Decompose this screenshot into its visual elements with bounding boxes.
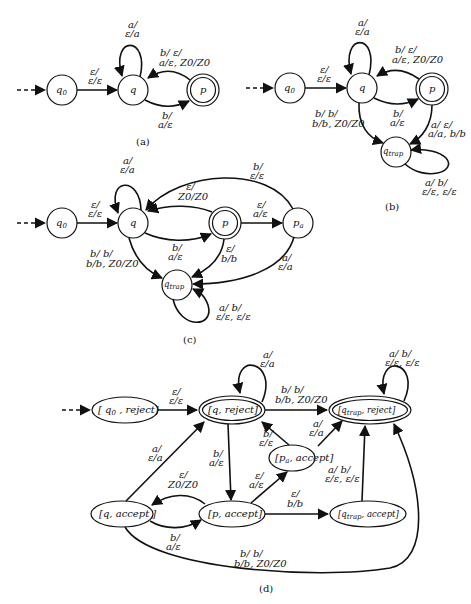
edge-q-p xyxy=(145,100,189,106)
edge-label: b/b, Z0/Z0 xyxy=(275,394,328,405)
edge-label: a/ε xyxy=(158,119,173,130)
edge-p-q xyxy=(377,70,419,79)
edge-label: ε/a xyxy=(309,427,324,438)
svg-text:p: p xyxy=(222,217,229,228)
edge-label: b/b xyxy=(287,498,303,509)
svg-text:p: p xyxy=(429,83,436,94)
edge-q-p xyxy=(145,233,211,240)
state-p-accept: [p, accept] xyxy=(199,501,265,527)
svg-text:p: p xyxy=(200,84,207,95)
edge-label: b/b, Z0/Z0 xyxy=(86,258,139,269)
panel-a: q0 ε/ ε/ε q a/ ε/a p b/ ε/ a/ε, Z0/Z0 b/… xyxy=(17,19,219,147)
svg-text:q: q xyxy=(130,84,136,95)
panel-b: q0 ε/ ε/ε q a/ ε/a p b/ ε/ a/ε, Z0/Z0 b/… xyxy=(246,17,466,212)
edge-label: ε/ε xyxy=(169,395,183,406)
edge-q-p xyxy=(374,98,418,104)
edge-label: ε/ε, ε/ε xyxy=(216,311,251,322)
edge-qtrapaccept-qtrapreject xyxy=(362,426,365,501)
svg-text:[q, accept ]: [q, accept ] xyxy=(99,508,156,519)
edge-label: b/b xyxy=(221,253,237,264)
edge-label: a/ε xyxy=(390,117,405,128)
state-q-reject: [q, reject] xyxy=(199,396,265,424)
edge-label: a/ε xyxy=(166,541,181,552)
state-q-accept: [q, accept ] xyxy=(91,501,156,527)
state-qtrap-reject: [qtrap, reject] xyxy=(329,396,411,424)
panel-d: [ q0 , reject] ε/ ε/ε [q, reject] a/ ε/a… xyxy=(62,348,420,594)
edge-label: b/b, Z0/Z0 xyxy=(312,118,365,129)
self-loop-qtrap-reject xyxy=(383,366,408,401)
edge-qreject-paccept xyxy=(228,424,231,500)
state-p: p xyxy=(187,74,219,106)
state-pa: pa xyxy=(283,208,313,238)
edge-label: a/ε xyxy=(253,208,268,219)
edge-p-qtrap xyxy=(192,239,224,277)
edge-label: a/ε, Z0/Z0 xyxy=(159,57,211,68)
svg-text:q: q xyxy=(130,217,136,228)
edge-label: ε/a xyxy=(148,452,163,463)
edge-label: a/ε xyxy=(249,479,264,490)
edge-label: ε/ε xyxy=(88,208,102,219)
edge-label: ε/a xyxy=(260,358,275,369)
edge-label: a/ε, Z0/Z0 xyxy=(392,54,444,65)
svg-text:q: q xyxy=(359,82,365,93)
state-q0: q0 xyxy=(47,208,77,238)
edge-label: ε/a xyxy=(120,164,135,175)
edge-label: ε/a xyxy=(125,28,140,39)
edge-label: ε/ε, ε/ε xyxy=(325,473,360,484)
edge-label: Z0/Z0 xyxy=(177,191,209,202)
edge-label: ε/ε, ε/ε xyxy=(385,357,420,368)
state-pa-accept: [pa, accept] xyxy=(269,445,333,471)
state-qtrap-accept: [qtrap, accept] xyxy=(330,501,406,527)
edge-label: ε/ε, ε/ε xyxy=(422,186,457,197)
caption-b: (b) xyxy=(385,201,399,212)
edge-p-q xyxy=(148,206,212,212)
svg-text:[q, reject]: [q, reject] xyxy=(208,404,258,415)
state-q0: q0 xyxy=(275,73,305,103)
edge-p-q xyxy=(148,72,190,81)
pda-figure: q0 ε/ ε/ε q a/ ε/a p b/ ε/ a/ε, Z0/Z0 b/… xyxy=(0,0,471,604)
edge-label: ε/ε xyxy=(317,73,331,84)
edge-qaccept-paccept xyxy=(150,520,201,528)
state-p: p xyxy=(209,207,241,239)
edge-label: ε/a xyxy=(278,261,293,272)
edge-label: ε/ε xyxy=(259,437,273,448)
state-q0-reject: [ q0 , reject] xyxy=(92,397,159,423)
edge-label: a/ε xyxy=(209,457,224,468)
caption-d: (d) xyxy=(259,583,273,594)
edge-label: ε/ε xyxy=(88,75,102,86)
edge-paccept-qaccept xyxy=(152,495,205,505)
edge-label: a/a, b/b xyxy=(428,128,466,139)
caption-a: (a) xyxy=(136,136,150,147)
state-q0: q0 xyxy=(47,75,77,105)
panel-c: q0 ε/ ε/ε q a/ ε/a p ε/ Z0/Z0 b/ a/ε pa … xyxy=(17,155,313,345)
edge-label: ε/a xyxy=(355,26,370,37)
edge-label: Z0/Z0 xyxy=(167,479,199,490)
self-loop-q xyxy=(349,43,371,75)
state-q: q xyxy=(347,73,377,103)
edge-label: ε/ε xyxy=(250,170,264,181)
state-qtrap: qtrap xyxy=(162,270,192,300)
svg-text:[p, accept]: [p, accept] xyxy=(208,508,262,519)
state-qtrap: qtrap xyxy=(381,137,411,167)
caption-c: (c) xyxy=(183,334,197,345)
state-q: q xyxy=(118,208,148,238)
edge-label: a/ε xyxy=(168,251,183,262)
edge-label: b/b, Z0/Z0 xyxy=(234,558,287,569)
state-q: q xyxy=(118,75,148,105)
edge-pa-q xyxy=(146,178,293,210)
state-p: p xyxy=(416,73,448,105)
self-loop-q xyxy=(120,45,142,77)
